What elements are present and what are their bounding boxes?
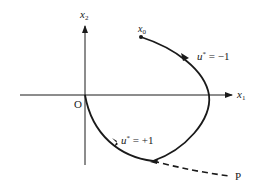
label-u-minus-1: u* = −1 (197, 50, 229, 62)
end-point-label: P (235, 170, 241, 182)
start-point-label: x0 (137, 23, 146, 36)
label-u-plus-1: u* = +1 (121, 134, 153, 146)
trajectory-dashed-continuation (153, 161, 230, 176)
origin-label: O (74, 98, 82, 110)
direction-arrow-icon (181, 53, 189, 61)
phase-plane-diagram: x1 x2 O x0 u* = −1 u* = +1 P (0, 0, 257, 192)
trajectory-u-plus-1 (85, 95, 153, 161)
x1-axis-label: x1 (236, 88, 246, 102)
x2-axis-label: x2 (79, 8, 89, 22)
